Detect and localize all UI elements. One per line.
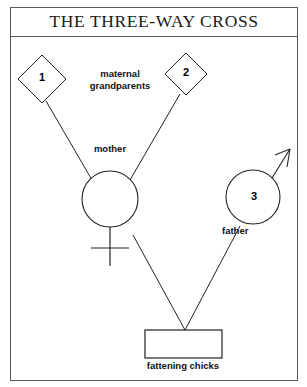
father-label: father: [222, 225, 282, 237]
maternal-grandparents-label-line2: grandparents: [77, 80, 163, 92]
line-father-to-offspring: [185, 226, 240, 330]
maternal-grandparents-label-line1: maternal: [77, 68, 163, 80]
maternal-grandparents-label: maternal grandparents: [77, 68, 163, 91]
mother-label: mother: [80, 143, 140, 155]
offspring-rectangle: [145, 330, 222, 358]
line-mother-to-offspring: [133, 235, 185, 330]
figure-page: THE THREE-WAY CROSS 1 2 3 maternal: [0, 0, 307, 387]
line-grandparent1-to-mother: [46, 101, 92, 180]
fattening-chicks-label: fattening chicks: [133, 360, 233, 372]
father-number: 3: [240, 190, 268, 202]
grandparent-1-number: 1: [28, 71, 56, 83]
line-grandparent2-to-mother: [130, 94, 180, 180]
grandparent-2-number: 2: [172, 66, 200, 78]
mother-circle: [82, 171, 138, 227]
